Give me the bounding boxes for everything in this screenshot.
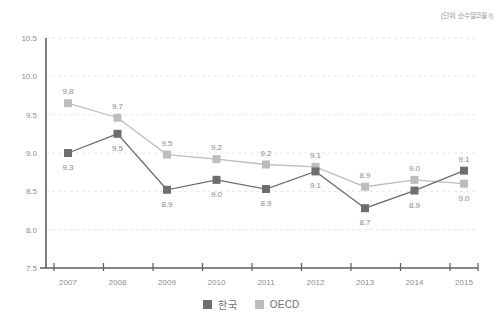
y-axis-tick-label: 9.0 (26, 149, 38, 158)
data-point-marker[interactable] (312, 167, 320, 175)
data-point-marker[interactable] (411, 187, 419, 195)
data-point-marker[interactable] (361, 183, 369, 191)
legend-entry-korea[interactable]: 한국 (203, 297, 236, 312)
data-value-label: 9.5 (112, 144, 124, 153)
data-value-label: 9.1 (458, 155, 470, 164)
data-value-label: 9.5 (161, 139, 173, 148)
data-value-label: 8.9 (161, 200, 173, 209)
data-value-label: 8.9 (359, 171, 371, 180)
legend-swatch-korea (203, 300, 212, 309)
data-value-labels-layer: 9.89.79.59.29.29.18.99.09.09.39.58.99.08… (62, 87, 470, 227)
y-axis-tick-label: 8.0 (26, 226, 38, 235)
x-axis-tick-label: 2008 (109, 278, 127, 287)
data-point-marker[interactable] (262, 161, 270, 169)
x-axis-tick-label: 2010 (208, 278, 226, 287)
data-point-marker[interactable] (262, 185, 270, 193)
data-value-label: 9.0 (458, 194, 470, 203)
line-chart-plot: 10.510.09.59.08.58.07.5 2007200820092010… (0, 0, 503, 329)
data-value-label: 8.9 (260, 199, 272, 208)
data-point-marker[interactable] (411, 176, 419, 184)
data-value-label: 9.1 (310, 151, 322, 160)
data-point-marker[interactable] (64, 99, 72, 107)
y-axis-tick-label: 8.5 (26, 187, 38, 196)
data-value-label: 9.2 (211, 143, 223, 152)
data-value-label: 9.0 (211, 190, 223, 199)
chart-container: (단위: 순수알코올 ℓ) 10.510.09.59.08.58.07.5 20… (0, 0, 503, 329)
legend-entry-oecd[interactable]: OECD (255, 299, 300, 310)
data-value-label: 9.7 (112, 102, 124, 111)
data-point-marker[interactable] (163, 151, 171, 159)
x-axis-tick-label: 2013 (356, 278, 374, 287)
x-axis-tick-label: 2011 (257, 278, 275, 287)
x-axis-tick-label: 2009 (158, 278, 176, 287)
x-axis-tick-label: 2015 (455, 278, 473, 287)
y-axis-tick-label: 9.5 (26, 111, 38, 120)
data-point-marker[interactable] (361, 204, 369, 212)
data-point-marker[interactable] (213, 155, 221, 163)
x-axis-tick-label: 2012 (307, 278, 325, 287)
data-point-marker[interactable] (460, 180, 468, 188)
data-value-label: 8.9 (409, 201, 421, 210)
data-point-marker[interactable] (114, 114, 122, 122)
legend-label-oecd: OECD (270, 299, 300, 310)
data-point-marker[interactable] (114, 130, 122, 138)
legend-swatch-oecd (255, 300, 264, 309)
x-axis-tick-label: 2007 (59, 278, 77, 287)
y-axis-tick-labels: 10.510.09.59.08.58.07.5 (21, 34, 37, 273)
data-point-marker[interactable] (213, 176, 221, 184)
series-line-korea (68, 134, 464, 208)
data-value-label: 9.3 (62, 163, 74, 172)
data-value-label: 9.2 (260, 149, 272, 158)
data-value-label: 9.0 (409, 164, 421, 173)
data-value-label: 9.8 (62, 87, 74, 96)
data-point-marker[interactable] (163, 186, 171, 194)
y-axis-tick-label: 10.0 (21, 72, 37, 81)
y-axis-tick-label: 7.5 (26, 264, 38, 273)
chart-legend: 한국 OECD (0, 297, 503, 312)
x-axis-tick-labels: 200720082009201020112012201320142015 (59, 278, 473, 287)
data-value-label: 9.1 (310, 181, 322, 190)
legend-label-korea: 한국 (218, 297, 236, 312)
data-point-marker[interactable] (460, 167, 468, 175)
axes-group (40, 38, 478, 271)
data-value-label: 8.7 (359, 218, 371, 227)
y-axis-tick-label: 10.5 (21, 34, 37, 43)
data-point-marker[interactable] (64, 149, 72, 157)
x-axis-tick-label: 2014 (406, 278, 424, 287)
